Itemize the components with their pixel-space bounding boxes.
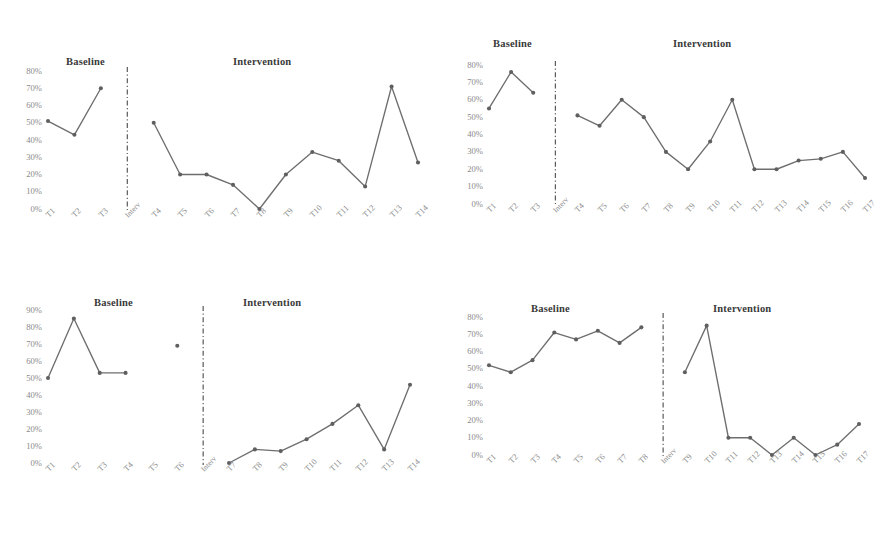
data-point-marker xyxy=(305,437,309,441)
data-point-marker xyxy=(792,436,796,440)
y-axis-tick-label: 70% xyxy=(4,339,42,349)
phase-header-intervention: Intervention xyxy=(713,303,771,314)
y-axis-tick-label: 20% xyxy=(4,424,42,434)
data-point-marker xyxy=(531,91,535,95)
figure-grid: BaselineIntervention80%70%60%50%40%30%20… xyxy=(0,0,882,555)
y-axis-tick-label: 80% xyxy=(4,322,42,332)
y-axis-tick-label: 40% xyxy=(4,390,42,400)
data-point-marker xyxy=(124,371,128,375)
data-point-marker xyxy=(683,370,687,374)
data-point-marker xyxy=(509,70,513,74)
data-point-marker xyxy=(231,183,235,187)
y-axis-tick-label: 80% xyxy=(4,66,42,76)
y-axis-tick-label: 20% xyxy=(445,164,483,174)
data-point-marker xyxy=(748,436,752,440)
y-axis-tick-label: 50% xyxy=(445,363,483,373)
chart-canvas xyxy=(0,278,441,555)
data-point-marker xyxy=(98,371,102,375)
data-point-marker xyxy=(730,98,734,102)
y-axis-tick-label: 0% xyxy=(4,458,42,468)
chart-panel-participant-4: BaselineIntervention80%70%60%50%40%30%20… xyxy=(441,278,882,555)
chart-panel-participant-1: BaselineIntervention80%70%60%50%40%30%20… xyxy=(0,0,441,278)
y-axis-tick-label: 80% xyxy=(445,60,483,70)
data-point-marker xyxy=(279,449,283,453)
data-point-marker xyxy=(664,150,668,154)
data-point-marker xyxy=(774,167,778,171)
data-point-marker xyxy=(574,337,578,341)
y-axis-tick-label: 10% xyxy=(445,181,483,191)
y-axis-tick-label: 40% xyxy=(445,129,483,139)
data-point-marker xyxy=(152,121,156,125)
chart-panel-participant-3: BaselineIntervention90%80%70%60%50%40%30… xyxy=(0,278,441,555)
data-point-marker xyxy=(337,159,341,163)
y-axis-tick-label: 50% xyxy=(4,373,42,383)
data-point-marker xyxy=(416,160,420,164)
y-axis-tick-label: 40% xyxy=(445,381,483,391)
y-axis-tick-label: 30% xyxy=(445,146,483,156)
y-axis-tick-label: 90% xyxy=(4,305,42,315)
y-axis-tick-label: 80% xyxy=(445,312,483,322)
chart-panel-participant-2: BaselineIntervention80%70%60%50%40%30%20… xyxy=(441,0,882,278)
data-point-marker xyxy=(863,176,867,180)
phase-header-baseline: Baseline xyxy=(493,38,532,49)
y-axis-tick-label: 20% xyxy=(4,169,42,179)
y-axis-tick-label: 50% xyxy=(445,112,483,122)
series-line xyxy=(48,88,101,135)
series-line xyxy=(229,385,410,463)
y-axis-tick-label: 0% xyxy=(445,199,483,209)
y-axis-tick-label: 60% xyxy=(4,356,42,366)
data-point-marker xyxy=(390,84,394,88)
phase-header-baseline: Baseline xyxy=(94,297,133,308)
y-axis-tick-label: 40% xyxy=(4,135,42,145)
data-point-marker xyxy=(205,172,209,176)
y-axis-tick-label: 20% xyxy=(445,415,483,425)
data-point-marker xyxy=(363,185,367,189)
data-point-marker xyxy=(575,113,579,117)
data-point-marker xyxy=(841,150,845,154)
y-axis-tick-label: 0% xyxy=(4,204,42,214)
phase-header-intervention: Intervention xyxy=(243,297,301,308)
data-point-marker xyxy=(253,447,257,451)
y-axis-tick-label: 10% xyxy=(4,186,42,196)
data-point-marker xyxy=(618,341,622,345)
data-point-marker xyxy=(72,316,76,320)
data-point-marker xyxy=(552,330,556,334)
data-point-marker xyxy=(46,119,50,123)
y-axis-tick-label: 30% xyxy=(4,407,42,417)
data-point-marker xyxy=(310,150,314,154)
chart-canvas xyxy=(0,0,441,278)
phase-header-intervention: Intervention xyxy=(673,38,731,49)
phase-header-intervention: Intervention xyxy=(233,56,291,67)
phase-header-baseline: Baseline xyxy=(531,303,570,314)
y-axis-tick-label: 0% xyxy=(445,450,483,460)
data-point-marker xyxy=(639,325,643,329)
y-axis-tick-label: 10% xyxy=(445,432,483,442)
data-point-marker xyxy=(686,167,690,171)
y-axis-tick-label: 60% xyxy=(4,100,42,110)
y-axis-tick-label: 70% xyxy=(445,77,483,87)
data-point-marker xyxy=(596,329,600,333)
data-point-marker xyxy=(178,172,182,176)
y-axis-tick-label: 50% xyxy=(4,117,42,127)
data-point-marker xyxy=(598,124,602,128)
chart-canvas xyxy=(441,278,882,555)
data-point-marker xyxy=(530,358,534,362)
data-point-marker xyxy=(509,370,513,374)
data-point-marker xyxy=(835,443,839,447)
data-point-marker xyxy=(857,422,861,426)
y-axis-tick-label: 60% xyxy=(445,346,483,356)
data-point-marker xyxy=(726,436,730,440)
y-axis-tick-label: 60% xyxy=(445,94,483,104)
y-axis-tick-label: 70% xyxy=(445,329,483,339)
data-point-marker xyxy=(284,172,288,176)
data-point-marker xyxy=(752,167,756,171)
data-point-marker xyxy=(642,115,646,119)
data-point-marker xyxy=(487,363,491,367)
series-line xyxy=(489,72,533,108)
data-point-marker xyxy=(46,376,50,380)
data-point-marker xyxy=(72,133,76,137)
series-line xyxy=(154,87,418,209)
data-point-marker xyxy=(99,86,103,90)
y-axis-tick-label: 70% xyxy=(4,83,42,93)
series-line xyxy=(489,327,641,372)
